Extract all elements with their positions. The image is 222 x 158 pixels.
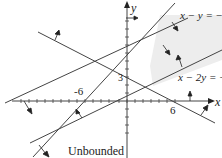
y-axis-label: y — [131, 2, 136, 14]
x-axis-label: x — [215, 96, 220, 108]
line-label-x-minus-y: x − y = −6 — [180, 10, 222, 21]
y-tick-label-3: 3 — [118, 73, 123, 83]
region-label-unbounded: Unbounded — [68, 145, 124, 157]
line-x-minus-2y-eq-neg2 — [30, 50, 222, 143]
line-label-x-minus-2y: x − 2y = −2 — [178, 72, 222, 83]
x-tick-label-neg6: -6 — [74, 86, 83, 97]
y-axis-arrow-icon — [124, 1, 130, 8]
x-axis-arrow-icon — [208, 98, 215, 104]
x-tick-label-6: 6 — [170, 105, 176, 116]
